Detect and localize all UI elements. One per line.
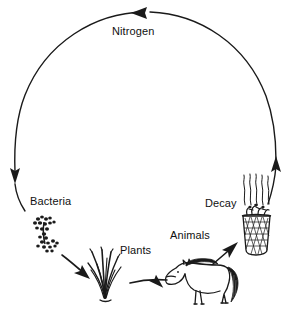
label-nitrogen: Nitrogen <box>112 26 154 37</box>
decay-vapor-icon <box>244 174 269 205</box>
label-decay: Decay <box>205 198 237 209</box>
grass-tuft-icon <box>88 247 121 302</box>
arrow-plants-to-animals <box>130 274 167 288</box>
nitrogen-cycle-diagram: Nitrogen Bacteria Decay Plants Animals <box>0 0 294 314</box>
arc-right-tail-path <box>268 166 276 204</box>
arc-top-arrowhead-icon <box>131 7 147 19</box>
atmosphere-arc-group <box>10 7 281 211</box>
label-animals: Animals <box>170 230 210 241</box>
horse-icon <box>166 259 238 304</box>
label-plants: Plants <box>120 245 151 256</box>
compost-basket-icon <box>242 204 271 255</box>
arc-left-tail-path <box>15 184 25 211</box>
arrow-animals-to-decay <box>213 242 238 264</box>
bacteria-cluster-icon <box>33 215 59 252</box>
cycle-illustration <box>0 0 294 314</box>
arrow-bacteria-to-plants <box>62 255 90 279</box>
label-bacteria: Bacteria <box>30 196 71 207</box>
arc-right-path <box>150 12 276 160</box>
